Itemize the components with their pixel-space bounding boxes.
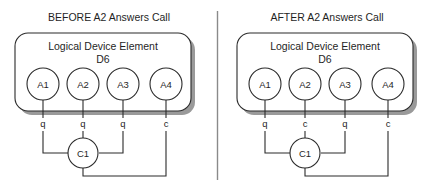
- node-a3-after: A3: [329, 68, 361, 100]
- panel-title-before: BEFORE A2 Answers Call: [48, 11, 170, 23]
- node-a1-after: A1: [249, 68, 281, 100]
- controller-c1-before: C1: [68, 138, 98, 168]
- wire-a1-to-c1-after: [265, 131, 293, 153]
- port-label-a1-before: q: [40, 118, 45, 129]
- port-label-a4-before: c: [164, 118, 169, 129]
- container-title-line2-after: D6: [318, 53, 332, 65]
- port-label-a4-after: c: [386, 118, 391, 129]
- node-a2-before: A2: [67, 68, 99, 100]
- container-title-line1-before: Logical Device Element: [48, 40, 158, 52]
- port-label-a1-after: q: [262, 118, 267, 129]
- node-label-a3-before: A3: [117, 79, 129, 90]
- node-a4-before: A4: [150, 68, 182, 100]
- container-title-line1-after: Logical Device Element: [270, 40, 380, 52]
- node-label-a2-before: A2: [77, 79, 89, 90]
- port-label-a2-after: c: [303, 118, 308, 129]
- port-label-a2-before: q: [80, 118, 85, 129]
- diagram-root: BEFORE A2 Answers Call Logical Device El…: [0, 0, 436, 192]
- logical-device-element-diagram: BEFORE A2 Answers Call Logical Device El…: [0, 0, 436, 192]
- controller-label-c1-after: C1: [299, 148, 311, 159]
- node-a1-before: A1: [27, 68, 59, 100]
- node-label-a1-after: A1: [259, 79, 271, 90]
- node-label-a1-before: A1: [37, 79, 49, 90]
- wire-a3-to-c1-before: [99, 131, 123, 153]
- wire-a3-to-c1-after: [321, 131, 345, 153]
- node-a3-before: A3: [107, 68, 139, 100]
- panel-title-after: AFTER A2 Answers Call: [270, 11, 383, 23]
- node-label-a2-after: A2: [299, 79, 311, 90]
- port-label-a3-after: q: [342, 118, 347, 129]
- node-label-a4-before: A4: [160, 79, 172, 90]
- controller-c1-after: C1: [290, 138, 320, 168]
- node-label-a4-after: A4: [382, 79, 394, 90]
- wire-a1-to-c1-before: [43, 131, 71, 153]
- panel-before: BEFORE A2 Answers Call Logical Device El…: [15, 11, 195, 176]
- container-title-line2-before: D6: [96, 53, 110, 65]
- port-label-a3-before: q: [120, 118, 125, 129]
- controller-label-c1-before: C1: [77, 148, 89, 159]
- node-label-a3-after: A3: [339, 79, 351, 90]
- node-a4-after: A4: [372, 68, 404, 100]
- node-a2-after: A2: [289, 68, 321, 100]
- panel-after: AFTER A2 Answers Call Logical Device Ele…: [237, 11, 417, 176]
